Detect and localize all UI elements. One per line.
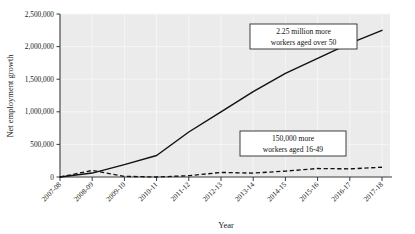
annotation-16-49-line1: 150,000 more — [272, 134, 315, 143]
line-chart-svg: 0500,0001,000,0001,500,0002,000,0002,500… — [0, 0, 415, 234]
annotation-over-50-line1: 2.25 million more — [276, 27, 331, 36]
annotation-16-49-line2: workers aged 16-49 — [263, 145, 324, 154]
x-axis-title: Year — [218, 220, 234, 230]
y-tick-label: 1,000,000 — [25, 107, 55, 116]
y-axis-title: Net employment growth — [5, 54, 15, 138]
annotation-over-50-line2: workers aged over 50 — [271, 38, 337, 47]
annotation-16-49: 150,000 more workers aged 16-49 — [240, 131, 346, 156]
y-tick-label: 2,500,000 — [25, 10, 55, 19]
y-tick-label: 1,500,000 — [25, 75, 55, 84]
annotation-over-50: 2.25 million more workers aged over 50 — [250, 24, 357, 49]
y-tick-label: 0 — [50, 173, 54, 182]
y-tick-label: 500,000 — [30, 140, 54, 149]
chart-figure: 0500,0001,000,0001,500,0002,000,0002,500… — [0, 0, 415, 234]
y-tick-label: 2,000,000 — [25, 42, 55, 51]
